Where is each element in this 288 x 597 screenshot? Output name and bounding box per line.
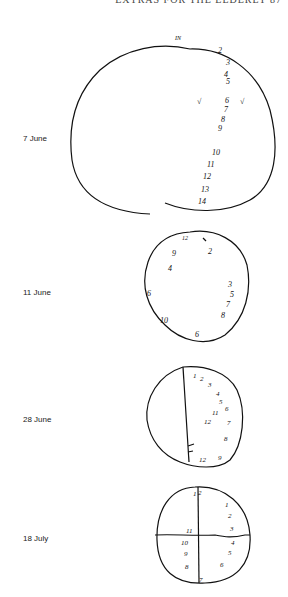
clock-drawings: IN 2 3 4 5 6 7 8 9 10 11 12 13 14 √ √ 12… — [0, 0, 288, 597]
svg-text:3: 3 — [229, 525, 234, 533]
svg-text:IN: IN — [174, 35, 182, 41]
svg-text:9: 9 — [184, 550, 188, 558]
svg-text:5: 5 — [228, 549, 232, 557]
svg-text:6: 6 — [225, 405, 229, 413]
svg-text:10: 10 — [181, 539, 189, 547]
svg-text:6: 6 — [147, 289, 151, 298]
svg-text:7: 7 — [227, 419, 231, 427]
svg-text:7: 7 — [224, 105, 229, 114]
svg-text:12: 12 — [182, 235, 188, 241]
svg-text:3: 3 — [207, 381, 212, 389]
svg-text:9: 9 — [218, 454, 222, 462]
svg-text:10: 10 — [212, 148, 220, 157]
svg-text:2: 2 — [208, 247, 212, 256]
svg-text:8: 8 — [221, 311, 225, 320]
svg-text:8: 8 — [185, 563, 189, 571]
clock-drawing-7-june — [71, 46, 275, 214]
svg-text:11: 11 — [207, 160, 214, 169]
svg-text:12: 12 — [203, 172, 211, 181]
svg-text:5: 5 — [226, 77, 230, 86]
svg-text:13: 13 — [201, 185, 209, 194]
svg-text:√: √ — [240, 97, 245, 106]
svg-text:2: 2 — [228, 512, 232, 520]
svg-text:1: 1 — [225, 501, 229, 509]
svg-text:5: 5 — [230, 290, 234, 299]
svg-text:6: 6 — [220, 561, 224, 569]
svg-text:14: 14 — [198, 197, 206, 206]
svg-text:10: 10 — [160, 316, 168, 325]
svg-text:6: 6 — [195, 330, 199, 339]
svg-text:5: 5 — [219, 398, 223, 406]
svg-text:11: 11 — [212, 409, 218, 417]
svg-text:11: 11 — [186, 527, 192, 535]
svg-text:12: 12 — [204, 418, 212, 426]
svg-text:9: 9 — [218, 124, 222, 133]
clock-drawing-28-june — [147, 367, 243, 467]
svg-text:3: 3 — [225, 58, 230, 67]
svg-text:9: 9 — [172, 249, 176, 258]
svg-text:8: 8 — [224, 435, 228, 443]
svg-text:12: 12 — [199, 456, 207, 464]
svg-text:3: 3 — [227, 280, 232, 289]
svg-text:7: 7 — [199, 576, 203, 584]
svg-text:2: 2 — [218, 46, 222, 55]
svg-text:√: √ — [197, 97, 202, 106]
svg-text:4: 4 — [231, 539, 235, 547]
svg-text:8: 8 — [221, 115, 225, 124]
clock-numbers-28-june: 1 2 3 4 5 6 11 12 7 8 12 9 — [193, 372, 231, 464]
svg-text:1: 1 — [193, 372, 197, 380]
clock-numbers-11-june: 12 2 9 4 6 3 5 7 8 10 6 — [147, 235, 234, 339]
svg-text:6: 6 — [225, 96, 229, 105]
svg-text:7: 7 — [226, 300, 231, 309]
svg-text:1: 1 — [193, 490, 197, 498]
clock-drawing-18-july — [155, 487, 250, 583]
svg-text:4: 4 — [168, 264, 172, 273]
svg-text:2: 2 — [200, 375, 204, 383]
svg-text:4: 4 — [216, 390, 220, 398]
svg-text:2: 2 — [198, 489, 202, 497]
